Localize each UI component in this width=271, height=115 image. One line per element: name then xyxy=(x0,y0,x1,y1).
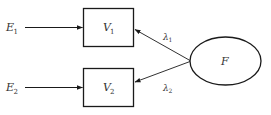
v2-subscript: 2 xyxy=(110,88,114,96)
observed-node-v1: V 1 xyxy=(84,9,134,47)
loading-lambda2: λ 2 xyxy=(162,83,173,94)
error-node-e2: E 2 xyxy=(5,81,18,96)
error-node-e1: E 1 xyxy=(5,21,18,36)
observed-node-v2: V 2 xyxy=(84,69,134,107)
latent-node-f: F xyxy=(190,37,261,85)
v1-subscript: 1 xyxy=(110,28,114,36)
loading-lambda1: λ 1 xyxy=(162,32,172,43)
path-diagram: E 1 V 1 E 2 V 2 F λ 1 λ 2 xyxy=(0,0,271,115)
lambda1-subscript: 1 xyxy=(169,36,173,43)
e2-subscript: 2 xyxy=(14,88,18,96)
lambda2-subscript: 2 xyxy=(169,87,173,94)
e1-subscript: 1 xyxy=(14,28,18,36)
f-label: F xyxy=(220,55,229,68)
arrow-f-to-v2 xyxy=(135,62,190,83)
